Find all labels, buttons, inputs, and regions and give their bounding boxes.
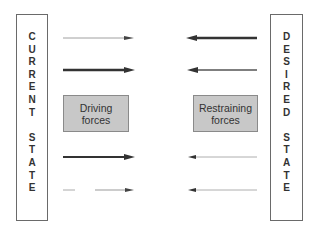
- restraining-arrow-1: [186, 35, 257, 41]
- driving-arrow-1: [63, 36, 134, 40]
- driving-arrow-2: [63, 67, 135, 73]
- driving-arrow-3: [63, 154, 135, 160]
- restraining-arrow-4: [188, 188, 257, 192]
- restraining-arrow-3: [188, 155, 257, 159]
- driving-arrow-4: [63, 188, 134, 192]
- restraining-arrow-2: [187, 67, 257, 73]
- force-arrows: [0, 0, 318, 234]
